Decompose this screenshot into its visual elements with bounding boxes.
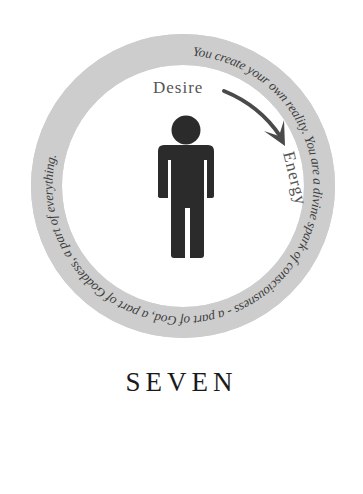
desire-label: Desire (153, 78, 203, 97)
chapter-title: SEVEN (0, 367, 363, 398)
emblem: You create your own reality. You are a d… (0, 0, 363, 494)
person-icon (158, 116, 214, 259)
